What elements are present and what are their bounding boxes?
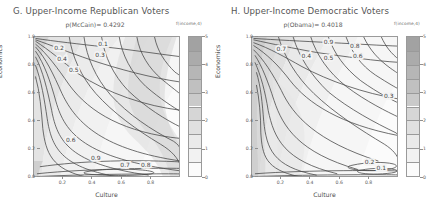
cbar-band: [189, 162, 201, 176]
svg-text:0.3: 0.3: [95, 52, 105, 58]
panel-g-ytick-0.8: 0.8: [19, 62, 35, 67]
panel-h-cbar-tick-2: 2: [423, 118, 426, 123]
panel-g-ytick-0.0: 0.0: [19, 174, 35, 179]
panel-h-ytick-0.2: 0.2: [237, 146, 253, 151]
panel-g-cbar-tick-2: 2: [205, 118, 208, 123]
panel-g: G. Upper-Income Republican Voters p(McCa…: [0, 0, 218, 209]
panel-h-ytick-1.0: 1.0: [237, 34, 253, 39]
panel-g-xtick-0.6: 0.6: [111, 180, 131, 185]
svg-text:0.1: 0.1: [98, 41, 108, 47]
panel-g-ytick-0.6: 0.6: [19, 90, 35, 95]
panel-h-plot-area: 0.9 0.8 0.7 0.6 0.5 0.4 0.3 0.2 0.1: [251, 36, 398, 177]
cbar-separator: [407, 107, 419, 108]
cbar-band: [407, 65, 419, 79]
svg-text:0.1: 0.1: [377, 165, 387, 171]
panel-g-xtick-0.4: 0.4: [82, 180, 102, 185]
panel-g-xtick-0.2: 0.2: [52, 180, 72, 185]
panel-h-ytick-0.6: 0.6: [237, 90, 253, 95]
cbar-separator: [407, 79, 419, 80]
cbar-band: [407, 134, 419, 148]
svg-text:0.9: 0.9: [324, 39, 334, 45]
cbar-separator: [407, 65, 419, 66]
panel-h-x-axis-label: Culture: [251, 191, 398, 198]
figure-contour-pair: G. Upper-Income Republican Voters p(McCa…: [0, 0, 436, 209]
cbar-separator: [189, 162, 201, 163]
cbar-separator: [189, 148, 201, 149]
panel-h-subtitle: p(Obama)= 0.4018: [218, 21, 408, 28]
panel-h-cbar-tick-3: 3: [423, 90, 426, 95]
panel-g-plot-area: 0.1 0.2 0.3 0.4 0.5 0.6 0.7 0.8 0.9: [33, 36, 180, 177]
cbar-band: [407, 93, 419, 107]
svg-text:0.6: 0.6: [353, 53, 363, 59]
cbar-band: [189, 65, 201, 79]
svg-text:0.8: 0.8: [350, 44, 360, 50]
panel-h-cbar-tick-0: 0: [423, 175, 426, 180]
panel-h-ytick-0.4: 0.4: [237, 118, 253, 123]
svg-text:0.7: 0.7: [120, 162, 130, 168]
panel-h-colorbar: [406, 36, 420, 177]
cbar-band: [407, 51, 419, 65]
panel-g-cbar-tick-3: 3: [205, 90, 208, 95]
svg-text:0.2: 0.2: [365, 159, 375, 165]
panel-h-xtick-0.4: 0.4: [300, 180, 320, 185]
svg-text:0.2: 0.2: [54, 45, 64, 51]
cbar-band: [407, 148, 419, 162]
panel-g-cbar-tick-0: 0: [205, 175, 208, 180]
cbar-band: [407, 79, 419, 93]
cbar-band: [189, 79, 201, 93]
panel-g-colorbar-title: f(income,4): [176, 21, 202, 26]
cbar-separator: [407, 162, 419, 163]
panel-h-ytick-0.8: 0.8: [237, 62, 253, 67]
cbar-band: [189, 134, 201, 148]
cbar-separator: [407, 51, 419, 52]
panel-h-y-axis-label: Economics: [214, 45, 221, 78]
cbar-band: [407, 37, 419, 51]
cbar-band: [407, 120, 419, 134]
panel-g-colorbar: [188, 36, 202, 177]
cbar-separator: [189, 107, 201, 108]
svg-text:0.3: 0.3: [384, 93, 394, 99]
cbar-separator: [189, 65, 201, 66]
cbar-separator: [407, 93, 419, 94]
panel-g-xtick-0.8: 0.8: [141, 180, 161, 185]
cbar-band: [189, 120, 201, 134]
panel-h-xtick-0.6: 0.6: [329, 180, 349, 185]
panel-h-xtick-0.8: 0.8: [359, 180, 379, 185]
cbar-band: [407, 107, 419, 121]
cbar-band: [189, 37, 201, 51]
svg-text:0.5: 0.5: [69, 68, 79, 74]
cbar-separator: [407, 134, 419, 135]
panel-h-ytick-0.0: 0.0: [237, 174, 253, 179]
cbar-band: [189, 148, 201, 162]
cbar-band: [189, 93, 201, 107]
panel-g-contour-surface: 0.1 0.2 0.3 0.4 0.5 0.6 0.7 0.8 0.9: [34, 37, 180, 177]
panel-g-y-axis-label: Economics: [0, 45, 3, 78]
panel-h-contour-surface: 0.9 0.8 0.7 0.6 0.5 0.4 0.3 0.2 0.1: [252, 37, 398, 177]
panel-h-cbar-tick-1: 1: [423, 146, 426, 151]
panel-g-cbar-tick-1: 1: [205, 146, 208, 151]
svg-text:0.5: 0.5: [324, 55, 334, 61]
cbar-band: [407, 162, 419, 176]
panel-g-subtitle: p(McCain)= 0.4292: [0, 21, 190, 28]
svg-text:0.4: 0.4: [57, 56, 67, 62]
panel-g-cbar-tick-5: 5: [205, 34, 208, 39]
cbar-separator: [407, 148, 419, 149]
cbar-separator: [189, 134, 201, 135]
panel-h-xtick-0.2: 0.2: [270, 180, 290, 185]
cbar-separator: [189, 120, 201, 121]
svg-text:0.9: 0.9: [91, 155, 101, 161]
cbar-band: [189, 51, 201, 65]
cbar-separator: [189, 51, 201, 52]
svg-text:0.7: 0.7: [277, 46, 287, 52]
panel-g-ytick-0.2: 0.2: [19, 146, 35, 151]
panel-g-ytick-0.4: 0.4: [19, 118, 35, 123]
panel-g-ytick-1.0: 1.0: [19, 34, 35, 39]
cbar-separator: [407, 120, 419, 121]
panel-h-colorbar-title: f(income,4): [394, 21, 420, 26]
cbar-separator: [189, 79, 201, 80]
panel-g-x-axis-label: Culture: [33, 191, 180, 198]
svg-text:0.6: 0.6: [66, 137, 76, 143]
panel-g-title: G. Upper-Income Republican Voters: [13, 6, 169, 16]
panel-g-cbar-tick-4: 4: [205, 62, 208, 67]
panel-h-cbar-tick-5: 5: [423, 34, 426, 39]
